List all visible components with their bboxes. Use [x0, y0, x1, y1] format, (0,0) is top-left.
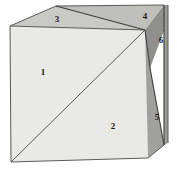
face-label-2: 2 — [111, 121, 116, 131]
face-label-5: 5 — [155, 112, 160, 122]
face-label-6: 6 — [159, 35, 164, 45]
front-face — [10, 26, 148, 162]
face-label-4: 4 — [143, 11, 148, 21]
right-edge-strip — [164, 5, 168, 145]
face-label-3: 3 — [55, 14, 60, 24]
face-label-1: 1 — [41, 67, 46, 77]
figure-container: 1 2 3 4 5 6 — [0, 0, 177, 170]
polyhedron-figure: 1 2 3 4 5 6 — [0, 0, 177, 170]
